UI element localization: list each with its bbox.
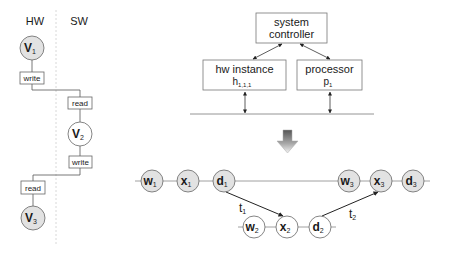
transfer-t1-arrow	[226, 192, 283, 216]
svg-text:processor: processor	[305, 63, 354, 75]
svg-text:write: write	[71, 158, 89, 167]
op-write-hw: write	[20, 72, 44, 84]
svg-text:read: read	[72, 99, 88, 108]
node-d1: d1	[213, 170, 235, 192]
processor-box: processor p1	[297, 60, 362, 90]
node-v3: V3	[21, 206, 45, 230]
node-d3: d3	[402, 170, 424, 192]
op-read-hw: read	[21, 181, 45, 194]
svg-text:controller: controller	[269, 28, 315, 40]
transfer-t2-label: t2	[349, 207, 356, 221]
system-controller-box: system controller	[256, 13, 327, 43]
node-v1: V1	[20, 36, 44, 60]
svg-text:write: write	[23, 74, 41, 83]
node-d2: d2	[309, 216, 331, 238]
node-x1: x1	[177, 170, 199, 192]
svg-text:read: read	[25, 184, 41, 193]
node-x3: x3	[370, 170, 392, 192]
node-v2: V2	[68, 122, 92, 146]
node-w2: w2	[243, 216, 265, 238]
svg-text:hw instance: hw instance	[215, 63, 273, 75]
op-read-sw: read	[68, 97, 92, 109]
down-arrow-icon	[277, 130, 298, 153]
hw-label: HW	[26, 15, 45, 27]
hw-instance-box: hw instance h1,1,1	[203, 60, 286, 90]
node-w3: w3	[338, 170, 360, 192]
schedule-graph: t1 t2 w1 x1 d1 w3 x3 d3 w2	[135, 170, 430, 238]
node-x2: x2	[276, 216, 298, 238]
hw-sw-timeline: HW SW V1 write read V2	[20, 10, 92, 245]
transfer-t1-label: t1	[239, 201, 246, 215]
diagram-canvas: HW SW V1 write read V2	[0, 0, 449, 255]
sw-label: SW	[70, 15, 88, 27]
node-w1: w1	[141, 170, 163, 192]
op-write-sw: write	[69, 156, 92, 168]
architecture-block: system controller hw instance h1,1,1 pro…	[190, 13, 374, 114]
svg-text:system: system	[274, 16, 309, 28]
